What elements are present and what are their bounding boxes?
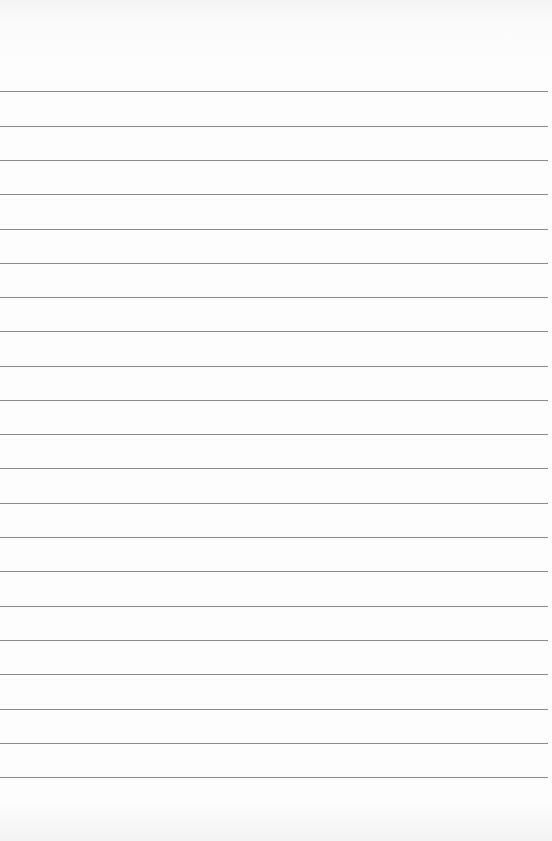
ruled-line bbox=[0, 194, 548, 195]
ruled-line bbox=[0, 777, 548, 778]
ruled-line bbox=[0, 709, 548, 710]
ruled-line bbox=[0, 91, 548, 92]
ruled-line bbox=[0, 126, 548, 127]
ruled-line bbox=[0, 468, 548, 469]
ruled-line bbox=[0, 434, 548, 435]
ruled-line bbox=[0, 503, 548, 504]
ruled-line bbox=[0, 160, 548, 161]
ruled-line bbox=[0, 571, 548, 572]
ruled-line bbox=[0, 297, 548, 298]
ruled-line bbox=[0, 743, 548, 744]
ruled-line bbox=[0, 400, 548, 401]
ruled-line bbox=[0, 229, 548, 230]
ruled-line bbox=[0, 331, 548, 332]
ruled-line bbox=[0, 640, 548, 641]
ruled-line bbox=[0, 263, 548, 264]
lined-paper-sheet bbox=[0, 0, 552, 841]
ruled-line bbox=[0, 674, 548, 675]
ruled-line bbox=[0, 537, 548, 538]
ruled-line bbox=[0, 606, 548, 607]
ruled-line bbox=[0, 366, 548, 367]
